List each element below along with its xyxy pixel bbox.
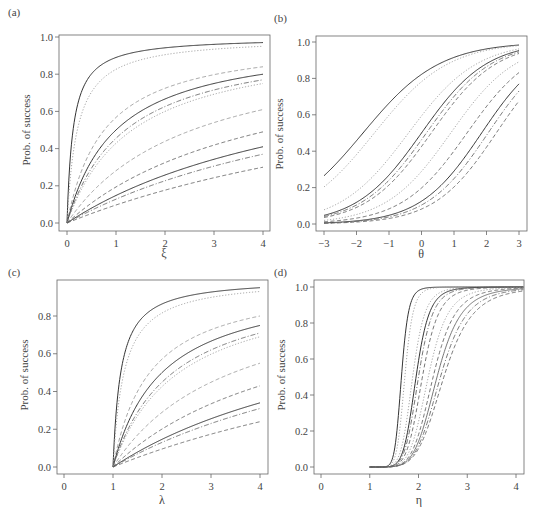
x-tick-label: 1 [367, 481, 372, 492]
series-curve-1-solid [324, 45, 519, 176]
series-curve-2-dotted [113, 291, 260, 467]
x-tick-label: 1 [451, 238, 456, 249]
series-curve-1-solid [113, 288, 260, 467]
x-tick-label: 1 [110, 481, 115, 492]
series-curve-7-dashed [113, 363, 260, 467]
curves [324, 45, 519, 223]
series-curve-4-solid [324, 51, 519, 216]
y-axis-label-b: Prob. of success [273, 98, 285, 169]
series-curve-7-dotted [370, 288, 524, 467]
panel-label-c: (c) [8, 266, 21, 279]
y-tick-label: 0.6 [40, 106, 53, 117]
x-axis-label-lambda: λ [159, 493, 165, 507]
x-tick-label: 2 [484, 238, 489, 249]
series-curve-3-dotted [324, 49, 519, 210]
x-tick-label: 0 [61, 481, 66, 492]
y-tick-label: 1.0 [40, 32, 53, 43]
x-tick-label: 3 [211, 238, 216, 249]
series-curve-7-dotted [324, 62, 519, 221]
y-tick-label: 0.2 [295, 426, 308, 437]
series-curve-10-dashdot [67, 154, 263, 223]
series-curve-6-dashed [370, 287, 524, 467]
y-tick-label: 0.6 [297, 109, 310, 120]
series-curve-9-solid [113, 403, 260, 467]
series-curve-9-solid [324, 84, 519, 223]
y-tick-label: 1.0 [297, 37, 310, 48]
x-tick-label: 4 [513, 481, 519, 492]
y-tick-label: 0.2 [297, 182, 310, 193]
x-axis-label-eta: η [416, 493, 422, 507]
y-tick-label: 0.0 [38, 462, 51, 473]
x-tick-label: 0 [318, 481, 323, 492]
series-curve-2-dotted [67, 46, 263, 223]
y-tick-label: 0.0 [297, 219, 310, 230]
x-tick-label: 4 [257, 481, 263, 492]
series-curve-4-solid [370, 287, 524, 467]
y-tick-label: 0.8 [38, 311, 51, 322]
series-curve-10-dashdot [324, 91, 519, 223]
plot-frame [57, 280, 268, 474]
y-tick-label: 1.0 [295, 282, 308, 293]
series-curve-5-dashdot [113, 333, 260, 467]
series-curve-5-dashdot [370, 287, 524, 467]
panel-label-a: (a) [8, 6, 21, 19]
series-curve-9-solid [370, 289, 524, 467]
panel-d-eta: (d) η Prob. of success 012340.00.20.40.6… [274, 266, 524, 507]
curves [370, 287, 524, 467]
plot-frame [314, 280, 524, 474]
x-tick-label: 3 [465, 481, 470, 492]
plot-frame [59, 35, 270, 231]
y-tick-label: 0.6 [38, 348, 51, 359]
x-tick-label: −2 [351, 238, 362, 249]
y-tick-label: 0.0 [40, 218, 53, 229]
series-curve-8-dashed [370, 288, 524, 467]
x-tick-label: 2 [416, 481, 421, 492]
x-tick-label: 1 [113, 238, 118, 249]
y-axis-label-c: Prob. of success [18, 339, 30, 410]
series-curve-5-dashdot [67, 80, 263, 223]
x-tick-label: 0 [419, 238, 424, 249]
y-axis-label-d: Prob. of success [275, 339, 287, 410]
y-tick-label: 0.4 [297, 146, 311, 157]
series-curve-1-solid [67, 43, 263, 223]
x-tick-label: 0 [64, 238, 69, 249]
x-tick-label: 3 [516, 238, 521, 249]
x-tick-label: −1 [383, 238, 394, 249]
y-tick-label: 0.4 [38, 386, 52, 397]
y-tick-label: 0.6 [295, 354, 308, 365]
series-curve-5-dashdot [324, 52, 519, 217]
series-curve-1-solid [370, 287, 524, 467]
panel-label-b: (b) [274, 12, 287, 25]
series-curve-3-dashed [67, 67, 263, 223]
panel-b-theta: (b) θ Prob. of success −3−2−101230.00.20… [273, 12, 527, 261]
y-tick-label: 0.4 [295, 390, 309, 401]
series-curve-3-dotted [370, 287, 524, 467]
x-tick-label: 2 [159, 481, 164, 492]
series-curve-2-dotted [370, 287, 524, 467]
x-tick-label: 4 [260, 238, 266, 249]
curves [67, 43, 263, 223]
y-tick-label: 0.0 [295, 462, 308, 473]
y-tick-label: 0.8 [297, 73, 310, 84]
panel-c-lambda: (c) λ Prob. of success 012340.00.20.40.6… [8, 266, 268, 507]
x-axis-label-theta: θ [418, 247, 424, 261]
series-curve-8-dashed [67, 132, 263, 223]
series-curve-9-solid [67, 147, 263, 223]
series-curve-8-dashed [113, 386, 260, 467]
panel-a-xi: (a) ξ Prob. of success 012340.00.20.40.6… [8, 6, 270, 260]
y-tick-label: 0.2 [40, 180, 53, 191]
y-tick-label: 0.8 [295, 318, 308, 329]
series-curve-11-dashed [370, 291, 524, 467]
series-curve-4-solid [67, 74, 263, 223]
x-tick-label: 2 [162, 238, 167, 249]
series-curve-3-dashed [113, 316, 260, 467]
series-curve-2-dotted [324, 46, 519, 187]
series-curve-6-dashed [324, 53, 519, 217]
x-tick-label: 3 [208, 481, 213, 492]
figure-canvas: (a) ξ Prob. of success 012340.00.20.40.6… [0, 0, 542, 522]
y-tick-label: 0.2 [38, 424, 51, 435]
x-tick-label: −3 [318, 238, 329, 249]
y-tick-label: 0.4 [40, 143, 54, 154]
figure-2x2-prob-of-success: (a) ξ Prob. of success 012340.00.20.40.6… [0, 0, 542, 522]
curves [113, 288, 260, 467]
